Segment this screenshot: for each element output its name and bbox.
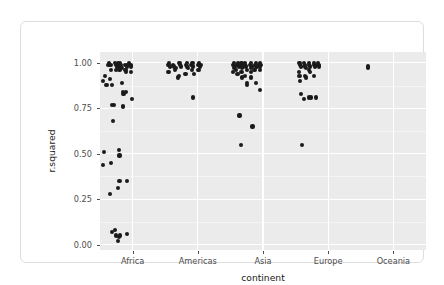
figure-card: 0.000.250.500.751.00 AfricaAmericasAsiaE…: [20, 21, 424, 263]
x-tick-label-africa: Africa: [121, 257, 144, 265]
x-tick-mark: [133, 251, 134, 254]
x-tick-label-europe: Europe: [314, 257, 343, 265]
x-axis-ticks: AfricaAmericasAsiaEuropeOceania: [21, 22, 423, 262]
x-tick-mark: [198, 251, 199, 254]
x-tick-mark: [393, 251, 394, 254]
chart-screenshot: 0.000.250.500.751.00 AfricaAmericasAsiaE…: [0, 0, 444, 285]
x-axis-title: continent: [241, 272, 285, 283]
y-axis-title: r.squared: [46, 130, 57, 173]
x-tick-label-asia: Asia: [254, 257, 271, 265]
x-tick-mark: [328, 251, 329, 254]
x-tick-mark: [263, 251, 264, 254]
x-tick-label-oceania: Oceania: [377, 257, 410, 265]
x-tick-label-americas: Americas: [179, 257, 217, 265]
